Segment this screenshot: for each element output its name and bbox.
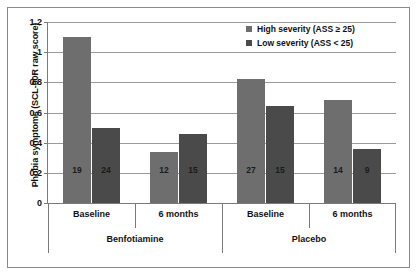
category-axis-level-2: BenfotiaminePlacebo [48,228,396,253]
category-label: 6 months [309,209,396,219]
legend-swatch-icon [246,26,252,32]
category-axis: Baseline6 monthsBaseline6 months Benfoti… [48,203,396,253]
group-separator [395,228,396,253]
y-tick-label: 0.4 [29,138,42,148]
category-separator [48,203,49,228]
bar-value-label: 9 [353,165,381,175]
group-label: Benfotiamine [48,234,222,244]
bar-value-label: 15 [179,165,207,175]
group-separator [48,228,49,253]
legend-swatch-icon [246,40,252,46]
bar[interactable]: 15 [179,134,207,203]
bar-value-label: 15 [266,165,294,175]
group-separator [222,228,223,253]
bar[interactable]: 24 [92,128,120,203]
bar-value-label: 12 [150,165,178,175]
bar[interactable]: 19 [63,37,91,203]
bar[interactable]: 27 [237,79,265,203]
bar-value-label: 14 [324,165,352,175]
category-axis-level-1: Baseline6 monthsBaseline6 months [48,203,396,228]
legend: High severity (ASS ≥ 25) Low severity (A… [246,24,355,52]
y-tick-label: 1 [37,47,42,57]
category-label: Baseline [222,209,309,219]
category-label: Baseline [48,209,135,219]
group-label: Placebo [222,234,396,244]
legend-label: Low severity (ASS < 25) [257,38,353,48]
category-separator [222,203,223,228]
bar[interactable]: 9 [353,149,381,203]
category-separator [135,203,136,228]
category-separator [309,203,310,228]
y-tick-label: 0.6 [29,108,42,118]
bar[interactable]: 15 [266,106,294,203]
category-label: 6 months [135,209,222,219]
legend-label: High severity (ASS ≥ 25) [257,24,355,34]
y-tick-label: 0.8 [29,77,42,87]
bar-value-label: 19 [63,165,91,175]
bar-value-label: 27 [237,165,265,175]
bar[interactable]: 12 [150,152,178,203]
bar[interactable]: 14 [324,100,352,203]
category-separator [395,203,396,228]
bar-value-label: 24 [92,165,120,175]
legend-item-low-severity: Low severity (ASS < 25) [246,38,355,48]
y-tick-label: 0 [37,198,42,208]
y-tick-label: 0.2 [29,168,42,178]
legend-item-high-severity: High severity (ASS ≥ 25) [246,24,355,34]
figure-root: Phobia symptoms (SCL-90R raw score) 00.2… [0,0,417,275]
y-tick-label: 1.2 [29,17,42,27]
